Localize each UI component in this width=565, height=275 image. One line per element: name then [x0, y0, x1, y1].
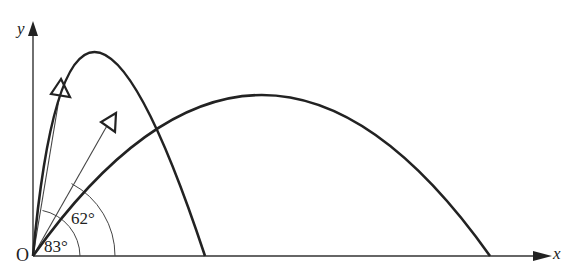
angle-label-62: 62° [71, 210, 95, 227]
velocity-arrowhead-62-icon [101, 113, 116, 132]
x-axis-label: x [553, 245, 561, 262]
velocity-vectors [33, 93, 108, 256]
angle-label-83: 83° [44, 238, 68, 255]
x-axis-arrow-icon [533, 251, 552, 261]
origin-label: O [16, 246, 29, 264]
shallow-trajectory [33, 95, 490, 256]
y-axis-arrow-icon [28, 21, 38, 36]
y-axis-label: y [17, 20, 25, 37]
projectile-diagram [0, 0, 565, 275]
trajectories [33, 52, 490, 256]
